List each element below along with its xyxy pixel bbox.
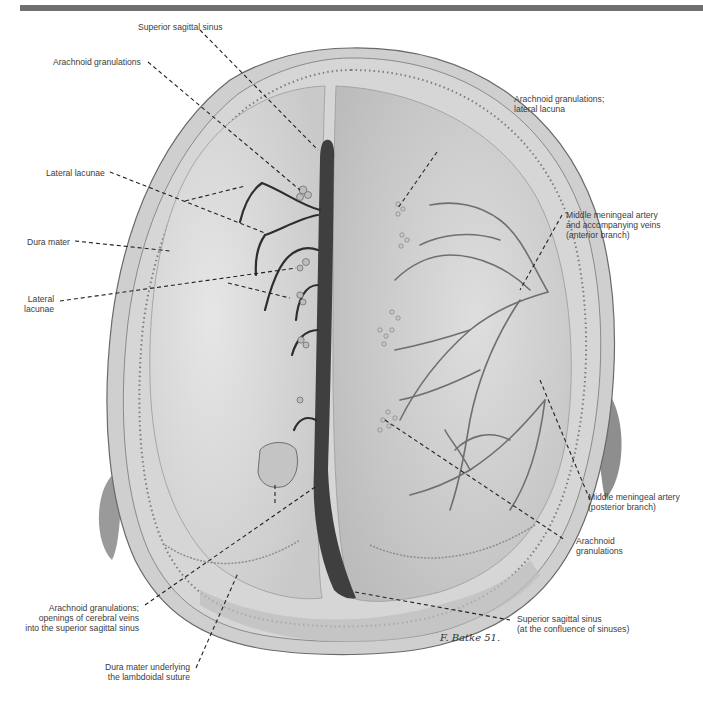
artist-signature: F. Batke 51. — [440, 632, 500, 643]
label-dura-mater: Dura mater — [27, 237, 70, 247]
label-lateral-lacunae-left: Lateral lacunae — [24, 294, 54, 314]
label-superior-sagittal-sinus: Superior sagittal sinus — [138, 22, 223, 32]
label-arachnoid-granulations-right: Arachnoid granulations — [576, 536, 623, 556]
label-lateral-lacunae-top: Lateral lacunae — [46, 168, 105, 178]
label-arachnoid-lateral-lacuna: Arachnoid granulations; lateral lacuna — [514, 94, 604, 114]
arachnoid-granulation-mass — [258, 443, 298, 488]
label-middle-meningeal-posterior: Middle meningeal artery (posterior branc… — [588, 492, 680, 512]
label-sinus-confluence: Superior sagittal sinus (at the confluen… — [517, 614, 629, 634]
label-middle-meningeal-anterior: Middle meningeal artery and accompanying… — [566, 210, 661, 240]
label-arachnoid-openings: Arachnoid granulations; openings of cere… — [25, 603, 139, 633]
label-dura-lambdoidal: Dura mater underlying the lambdoidal sut… — [105, 662, 190, 682]
label-arachnoid-granulations-top: Arachnoid granulations — [53, 57, 141, 67]
